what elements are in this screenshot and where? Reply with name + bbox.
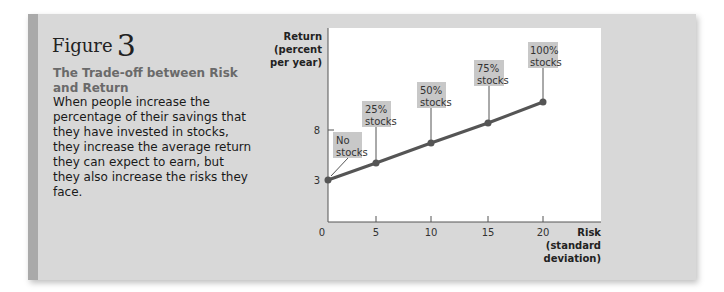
- svg-text:(standard: (standard: [546, 240, 601, 251]
- svg-text:deviation): deviation): [544, 253, 601, 264]
- svg-text:No: No: [336, 135, 350, 146]
- svg-text:50%: 50%: [420, 85, 442, 96]
- svg-text:20: 20: [537, 227, 550, 238]
- svg-text:Return: Return: [284, 31, 322, 42]
- y-axis-title: Return (percent per year): [270, 31, 322, 68]
- svg-text:stocks: stocks: [336, 147, 368, 158]
- svg-text:10: 10: [425, 227, 438, 238]
- x-axis-title: Risk (standard deviation): [544, 227, 602, 264]
- svg-text:3: 3: [314, 175, 320, 186]
- svg-text:5: 5: [373, 227, 379, 238]
- svg-text:stocks: stocks: [420, 97, 452, 108]
- svg-text:25%: 25%: [365, 104, 387, 115]
- svg-text:100%: 100%: [530, 45, 559, 56]
- svg-text:75%: 75%: [477, 63, 499, 74]
- svg-text:stocks: stocks: [530, 57, 562, 68]
- svg-text:15: 15: [482, 227, 495, 238]
- svg-text:Risk: Risk: [577, 227, 601, 238]
- chart: Return (percent per year) 8 3 0 5 10 15 …: [0, 0, 724, 292]
- svg-text:per year): per year): [270, 57, 322, 68]
- svg-text:8: 8: [314, 125, 320, 136]
- svg-text:0: 0: [319, 227, 325, 238]
- svg-text:stocks: stocks: [365, 116, 397, 127]
- svg-text:(percent: (percent: [274, 44, 322, 55]
- svg-text:stocks: stocks: [477, 75, 509, 86]
